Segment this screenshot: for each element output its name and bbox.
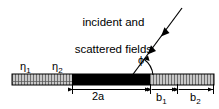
b2-subscript: 2 <box>196 97 200 106</box>
slab-segment-black-center <box>72 74 150 85</box>
b1-subscript: 1 <box>162 97 166 106</box>
eta1-label: η1 <box>20 60 31 75</box>
slab-segment-hatched-right <box>150 74 214 85</box>
slab-segment-hatched-left <box>12 74 72 85</box>
dimension-label-2a: 2a <box>92 90 104 103</box>
scattering-geometry-figure: incident and scattered fields η1 η2 ϕ 2a… <box>0 0 219 109</box>
caption-line-2: scattered fields <box>75 43 152 55</box>
eta2-subscript: 2 <box>58 66 62 75</box>
eta2-label: η2 <box>52 60 63 75</box>
dimension-label-b2: b2 <box>190 91 201 106</box>
phi-angle-label: ϕ <box>138 54 144 67</box>
slab-bar <box>12 74 214 85</box>
dimension-label-b1: b1 <box>156 91 167 106</box>
eta1-subscript: 1 <box>26 66 30 75</box>
caption-incident-scattered-fields: incident and scattered fields <box>48 3 166 69</box>
caption-line-1: incident and <box>82 16 144 28</box>
